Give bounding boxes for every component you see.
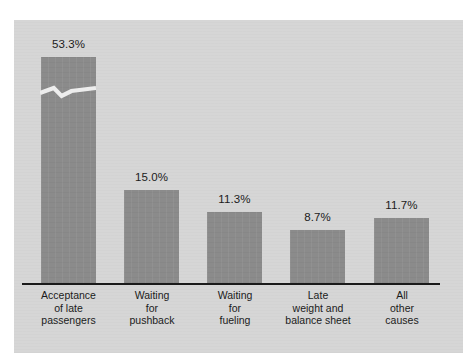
category-label-line: for	[189, 302, 281, 315]
category-label-line: weight and	[272, 302, 364, 315]
value-label-acceptance-of-late-passengers: 53.3%	[41, 38, 96, 50]
category-label-line: balance sheet	[272, 314, 364, 327]
category-label-line: All	[356, 289, 448, 302]
category-label-line: passengers	[22, 314, 115, 327]
category-label-line: for	[106, 302, 198, 315]
bar-late-weight-and-balance-sheet[interactable]	[290, 230, 345, 283]
category-label-line: other	[356, 302, 448, 315]
category-label-line: Waiting	[189, 289, 281, 302]
value-label-all-other-causes: 11.7%	[374, 199, 429, 211]
x-axis-line	[22, 283, 440, 285]
category-label-all-other-causes: All other causes	[356, 289, 448, 327]
category-label-line: pushback	[106, 314, 198, 327]
category-label-waiting-for-fueling: Waiting for fueling	[189, 289, 281, 327]
bar-acceptance-of-late-passengers[interactable]	[41, 57, 96, 283]
chart-figure: 53.3% Acceptance of late passengers 15.0…	[0, 0, 463, 353]
value-label-late-weight-and-balance-sheet: 8.7%	[290, 211, 345, 223]
category-label-late-weight-and-balance-sheet: Late weight and balance sheet	[272, 289, 364, 327]
category-label-line: Acceptance	[22, 289, 115, 302]
category-label-line: causes	[356, 314, 448, 327]
bar-waiting-for-fueling[interactable]	[207, 212, 262, 283]
category-label-line: of late	[22, 302, 115, 315]
bar-waiting-for-pushback[interactable]	[124, 190, 179, 283]
category-label-line: Waiting	[106, 289, 198, 302]
value-label-waiting-for-pushback: 15.0%	[124, 171, 179, 183]
category-label-line: Late	[272, 289, 364, 302]
category-label-line: fueling	[189, 314, 281, 327]
value-label-waiting-for-fueling: 11.3%	[207, 193, 262, 205]
category-label-waiting-for-pushback: Waiting for pushback	[106, 289, 198, 327]
bar-all-other-causes[interactable]	[374, 218, 429, 283]
bar-chart-plot-area: 53.3% Acceptance of late passengers 15.0…	[0, 0, 463, 353]
category-label-acceptance-of-late-passengers: Acceptance of late passengers	[22, 289, 115, 327]
